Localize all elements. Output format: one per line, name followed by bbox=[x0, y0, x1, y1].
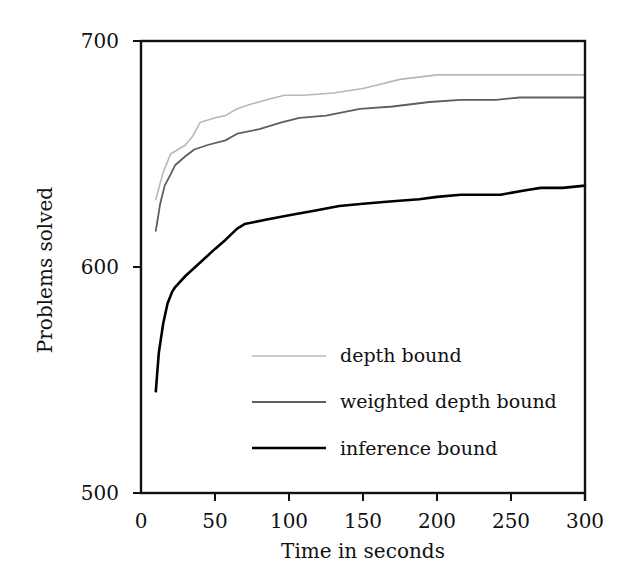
x-tick-label: 0 bbox=[135, 509, 148, 533]
x-tick-label: 250 bbox=[492, 509, 530, 533]
y-axis-label: Problems solved bbox=[33, 187, 57, 354]
x-axis-ticks: 050100150200250300 bbox=[135, 493, 604, 533]
x-tick-label: 200 bbox=[418, 509, 456, 533]
series-line-depth-bound bbox=[156, 75, 585, 199]
line-chart: 050100150200250300 500600700 Time in sec… bbox=[0, 0, 630, 587]
y-tick-label: 500 bbox=[81, 481, 119, 505]
x-tick-label: 150 bbox=[344, 509, 382, 533]
x-axis-label: Time in seconds bbox=[281, 539, 445, 563]
legend-label: inference bound bbox=[340, 437, 497, 459]
x-tick-label: 300 bbox=[566, 509, 604, 533]
legend-label: depth bound bbox=[340, 344, 462, 366]
y-axis-ticks: 500600700 bbox=[81, 29, 141, 505]
y-tick-label: 700 bbox=[81, 29, 119, 53]
legend: depth bound weighted depth bound inferen… bbox=[252, 344, 557, 459]
legend-item-depth-bound: depth bound bbox=[252, 344, 462, 366]
y-tick-label: 600 bbox=[81, 255, 119, 279]
legend-item-weighted-depth-bound: weighted depth bound bbox=[252, 390, 557, 412]
legend-item-inference-bound: inference bound bbox=[252, 437, 497, 459]
x-tick-label: 50 bbox=[202, 509, 227, 533]
legend-label: weighted depth bound bbox=[340, 390, 557, 412]
x-tick-label: 100 bbox=[270, 509, 308, 533]
